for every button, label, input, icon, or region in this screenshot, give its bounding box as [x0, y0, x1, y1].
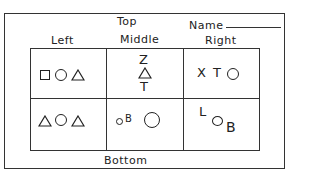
- cell-bottom-right: L B: [184, 99, 259, 150]
- name-label: Name: [189, 19, 223, 32]
- square-icon: [40, 70, 50, 80]
- circle-icon: [212, 116, 223, 126]
- cell-bottom-middle: B: [107, 99, 184, 150]
- circle-icon: [55, 114, 67, 126]
- letter-b: B: [226, 119, 236, 135]
- small-circle-icon: [116, 118, 123, 125]
- cell-top-left: [31, 49, 107, 99]
- column-header-left: Left: [51, 34, 74, 47]
- large-circle-icon: [144, 112, 160, 128]
- letter-t: T: [213, 65, 221, 80]
- cell-bottom-left: [31, 99, 107, 150]
- column-header-middle: Middle: [120, 33, 159, 46]
- bottom-label: Bottom: [104, 154, 147, 167]
- circle-icon: [227, 68, 239, 80]
- name-field-line[interactable]: [226, 27, 281, 28]
- symbol-grid: Z T X T B L B: [30, 48, 260, 151]
- letter-t: T: [140, 79, 148, 94]
- letter-l: L: [199, 104, 206, 119]
- circle-icon: [55, 69, 67, 81]
- letter-z: Z: [139, 52, 148, 67]
- column-header-right: Right: [205, 34, 236, 47]
- cell-top-right: X T: [184, 49, 259, 99]
- top-label: Top: [117, 15, 137, 28]
- letter-x: X: [197, 65, 206, 80]
- letter-b: B: [125, 113, 132, 124]
- cell-top-middle: Z T: [107, 49, 184, 99]
